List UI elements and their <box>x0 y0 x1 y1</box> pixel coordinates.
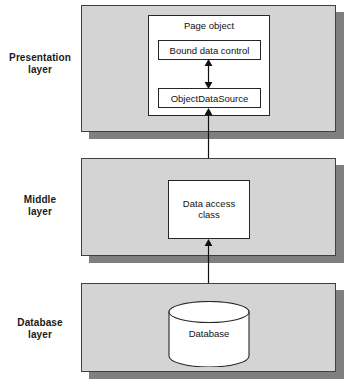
bound-data-control-label: Bound data control <box>158 45 261 56</box>
architecture-diagram: Presentation layer Page object Bound dat… <box>0 0 351 392</box>
database-layer-label-line2: layer <box>0 329 80 341</box>
page-object-label: Page object <box>148 20 270 31</box>
middle-layer-label: Middle layer <box>0 194 80 218</box>
database-cylinder-label: Database <box>168 328 250 339</box>
objectdatasource-label: ObjectDataSource <box>158 93 261 104</box>
presentation-layer-label-line2: layer <box>0 64 80 76</box>
middle-layer-label-line2: layer <box>0 206 80 218</box>
database-layer-label: Database layer <box>0 317 80 341</box>
presentation-layer-label: Presentation layer <box>0 52 80 76</box>
middle-layer-label-line1: Middle <box>0 194 80 206</box>
data-access-class-label: Data access class <box>168 198 250 220</box>
connector-bound-to-objectdatasource <box>200 59 217 89</box>
data-access-class-label-line2: class <box>198 209 220 220</box>
presentation-layer-label-line1: Presentation <box>0 52 80 64</box>
database-layer-label-line1: Database <box>0 317 80 329</box>
data-access-class-label-line1: Data access <box>183 198 235 209</box>
